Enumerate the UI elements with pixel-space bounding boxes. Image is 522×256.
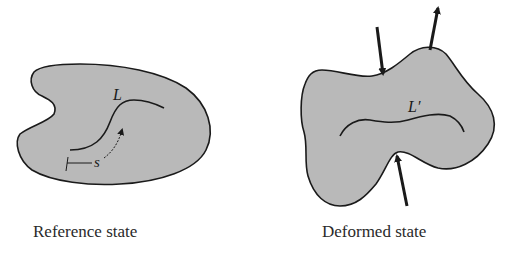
curve-label-L: L xyxy=(112,86,122,103)
force-arrow-bottom-compressive xyxy=(397,156,407,206)
reference-body xyxy=(17,64,210,184)
force-arrow-top-right-tensile xyxy=(430,8,438,50)
arc-length-label-s: s xyxy=(94,154,100,170)
deformed-panel: L′ xyxy=(301,8,494,206)
force-arrow-top-compressive xyxy=(377,27,383,74)
reference-panel: L s xyxy=(17,64,210,184)
curve-label-L-prime: L′ xyxy=(407,98,421,115)
caption-deformed-state: Deformed state xyxy=(322,222,426,242)
deformed-body xyxy=(301,47,494,206)
figure-canvas: L s L′ xyxy=(0,0,522,256)
caption-reference-state: Reference state xyxy=(33,222,137,242)
